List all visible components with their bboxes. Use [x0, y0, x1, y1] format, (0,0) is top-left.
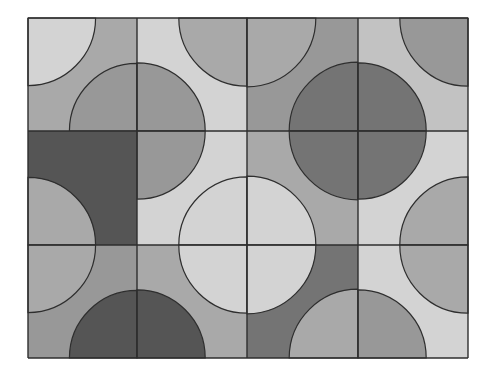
tile	[137, 245, 247, 358]
tile	[137, 131, 247, 245]
tile	[28, 18, 137, 131]
tile	[137, 18, 247, 131]
tile	[247, 131, 358, 245]
tile	[247, 18, 358, 131]
tile	[28, 245, 137, 358]
tile	[358, 131, 468, 245]
tile-board	[0, 0, 490, 382]
tile	[247, 245, 358, 358]
tile	[358, 18, 468, 131]
tile	[28, 131, 137, 245]
tile	[358, 245, 468, 358]
